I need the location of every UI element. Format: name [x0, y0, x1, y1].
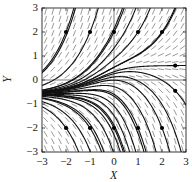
slope-segment — [180, 31, 184, 36]
slope-segment — [174, 16, 177, 22]
slope-segment — [181, 102, 184, 107]
slope-segment — [129, 61, 135, 63]
slope-segment — [130, 31, 133, 36]
slope-segment — [167, 131, 169, 137]
x-tick-label: −2 — [58, 156, 74, 167]
slope-segment — [152, 9, 155, 15]
slope-segment — [166, 38, 170, 43]
slope-segment — [51, 138, 54, 144]
slope-segment — [181, 9, 184, 15]
slope-segment — [151, 46, 156, 50]
slope-segment — [159, 110, 162, 116]
x-tick-label: 2 — [154, 156, 170, 167]
slope-segment — [88, 9, 90, 15]
slope-segment — [73, 30, 75, 36]
slope-segment — [66, 138, 69, 144]
slope-segment — [102, 9, 104, 15]
slope-segment — [66, 45, 69, 51]
slope-segment — [88, 16, 90, 22]
slope-segment — [145, 23, 148, 29]
slope-segment — [152, 23, 155, 29]
slope-segment — [58, 67, 62, 72]
slope-segment — [158, 53, 164, 56]
slope-segment — [80, 37, 83, 43]
slope-segment — [179, 75, 185, 78]
slope-segment — [165, 75, 171, 78]
slope-segment — [81, 9, 83, 15]
slope-segment — [102, 131, 105, 137]
slope-segment — [152, 117, 155, 123]
slope-segment — [73, 45, 76, 51]
slope-segment — [173, 95, 177, 100]
slope-segment — [59, 23, 61, 29]
slope-segment — [144, 53, 150, 56]
slope-segment — [160, 145, 162, 151]
slope-segment — [44, 138, 47, 144]
slope-segment — [65, 117, 69, 122]
slope-segment — [181, 131, 183, 137]
slope-segment — [174, 102, 177, 107]
slope-segment — [45, 9, 47, 15]
slope-segment — [123, 110, 126, 115]
initial-point-dot — [136, 126, 140, 130]
slope-segment — [143, 75, 149, 77]
slope-segment — [72, 104, 78, 107]
slope-segment — [102, 16, 104, 22]
slope-segment — [51, 45, 54, 51]
y-tick-label: 0 — [24, 74, 38, 85]
initial-point-dot — [173, 89, 177, 93]
slope-segment — [116, 124, 119, 130]
slope-segment — [172, 75, 178, 78]
slope-segment — [123, 38, 127, 43]
slope-segment — [59, 30, 61, 36]
slope-segment — [52, 145, 55, 151]
slope-segment — [44, 145, 47, 151]
slope-segment — [159, 16, 162, 22]
slope-segment — [109, 9, 111, 15]
slope-segment — [159, 38, 163, 43]
slope-segment — [116, 30, 119, 36]
slope-segment — [173, 46, 178, 50]
slope-field-figure: 3 2 1 0 −1 −2 −3 −3 −2 −1 0 1 2 3 X Y — [0, 0, 192, 182]
slope-segment — [94, 45, 97, 51]
slope-segment — [150, 61, 156, 62]
slope-segment — [73, 52, 76, 57]
slope-segment — [181, 124, 183, 130]
slope-segment — [123, 96, 128, 101]
slope-segment — [166, 88, 170, 93]
initial-point-dot — [112, 126, 116, 130]
slope-segment — [117, 9, 119, 15]
slope-segment — [174, 124, 176, 130]
slope-segment — [51, 37, 54, 43]
slope-segment — [165, 53, 171, 56]
slope-segment — [122, 53, 127, 57]
slope-segment — [144, 38, 148, 43]
slope-segment — [80, 124, 84, 129]
slope-segment — [152, 95, 156, 100]
slope-segment — [52, 23, 54, 29]
y-tick-label: 2 — [24, 26, 38, 37]
slope-segment — [59, 145, 62, 151]
initial-point-dot — [160, 126, 164, 130]
slope-segment — [66, 37, 69, 43]
slope-segment — [160, 131, 162, 137]
slope-segment — [45, 23, 47, 29]
slope-segment — [109, 45, 113, 50]
slope-segment — [59, 138, 62, 144]
slope-segment — [152, 31, 156, 36]
slope-segment — [66, 16, 68, 22]
slope-segment — [180, 88, 184, 93]
slope-segment — [159, 89, 163, 94]
slope-segment — [115, 89, 121, 92]
slope-segment — [130, 103, 134, 108]
slope-segment — [131, 145, 133, 151]
slope-segment — [95, 23, 97, 29]
slope-segment — [45, 16, 47, 22]
slope-segment — [44, 52, 47, 57]
slope-segment — [181, 110, 184, 116]
y-axis-title: Y — [0, 76, 15, 83]
initial-point-dot — [64, 30, 68, 34]
slope-segment — [88, 23, 90, 29]
slope-segment — [51, 124, 55, 129]
slope-segment — [115, 103, 119, 108]
